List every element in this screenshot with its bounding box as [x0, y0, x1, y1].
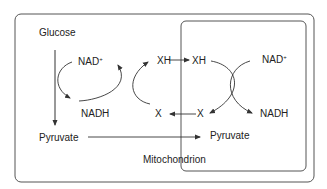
nad-plus-right-sup: +	[283, 54, 287, 60]
glucose-label: Glucose	[39, 28, 76, 38]
xh-left-label: XH	[157, 56, 171, 66]
pyruvate-cytosol-label: Pyruvate	[39, 133, 78, 143]
mitochondrion-boundary	[181, 21, 306, 171]
x-to-xh-curve	[133, 62, 150, 104]
x-right-label: X	[197, 109, 204, 119]
nad-plus-left-label: NAD+	[78, 57, 103, 67]
nad-plus-left-sup: +	[99, 56, 103, 62]
nadh-to-nad-curve	[79, 65, 121, 101]
x-left-label: X	[155, 109, 162, 119]
mitochondrion-label: Mitochondrion	[143, 155, 206, 165]
nadh-left-label: NADH	[81, 109, 109, 119]
nad-to-nadh-curve	[230, 61, 252, 113]
xh-right-label: XH	[192, 56, 206, 66]
nad-plus-left-text: NAD	[78, 56, 99, 67]
pyruvate-mitochondrion-label: Pyruvate	[210, 131, 249, 141]
nad-regeneration-left-curve	[58, 62, 72, 98]
nad-plus-right-text: NAD	[262, 54, 283, 65]
nad-plus-right-label: NAD+	[262, 55, 287, 65]
nadh-right-label: NADH	[260, 109, 288, 119]
